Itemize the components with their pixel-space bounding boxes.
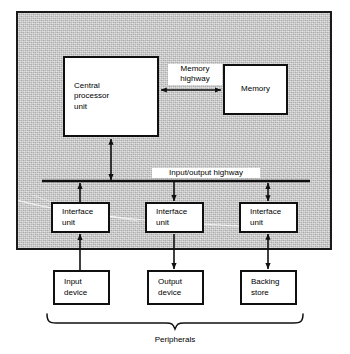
- output-device-label: Output device: [149, 277, 182, 298]
- input-device-box: Input device: [53, 270, 110, 305]
- computer-system-diagram: Central processor unit Memory Interface …: [0, 0, 350, 354]
- interface-unit-box-1: Interface unit: [51, 202, 110, 233]
- interface-unit-box-3: Interface unit: [239, 202, 298, 233]
- cpu-box: Central processor unit: [63, 56, 159, 137]
- interface-unit-box-2: Interface unit: [145, 202, 204, 233]
- interface-unit-label-3: Interface unit: [241, 207, 281, 228]
- backing-store-box: Backing store: [240, 270, 297, 305]
- cpu-box-label: Central processor unit: [65, 81, 109, 113]
- memory-highway-label: Memory highway: [168, 64, 222, 85]
- input-device-label: Input device: [55, 277, 87, 298]
- peripherals-brace: [47, 314, 303, 329]
- peripherals-label: Peripherals: [0, 335, 350, 344]
- output-device-box: Output device: [147, 270, 204, 305]
- io-highway-label: Input/output highway: [152, 168, 260, 178]
- interface-unit-label-1: Interface unit: [53, 207, 93, 228]
- interface-unit-label-2: Interface unit: [147, 207, 187, 228]
- backing-store-label: Backing store: [242, 277, 279, 298]
- memory-box: Memory: [223, 64, 288, 115]
- memory-box-label: Memory: [225, 84, 286, 95]
